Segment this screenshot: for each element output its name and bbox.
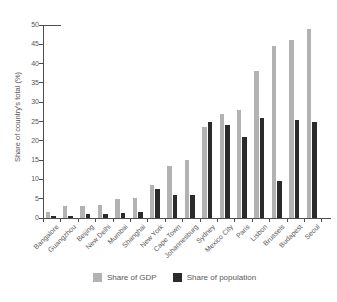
x-tick-mark (217, 219, 218, 222)
bar-population (260, 118, 265, 218)
y-tick-mark (39, 160, 43, 161)
x-tick-mark (147, 219, 148, 222)
bar-population (295, 120, 300, 218)
bar-population (103, 214, 108, 218)
y-tick-label: 0 (19, 214, 39, 222)
bar-gdp (272, 46, 277, 218)
y-tick-mark (39, 121, 43, 122)
bar-population (190, 195, 195, 218)
y-tick-label: 15 (19, 156, 39, 164)
x-tick-mark (287, 219, 288, 222)
x-tick-mark (321, 219, 322, 222)
bar-gdp (46, 212, 51, 218)
bar-population (51, 216, 56, 218)
bar-gdp (63, 206, 68, 218)
x-tick-mark (234, 219, 235, 222)
bar-gdp (167, 166, 172, 218)
x-tick-mark (43, 219, 44, 222)
x-tick-mark (95, 219, 96, 222)
gdp-swatch-icon (93, 273, 102, 282)
bar-gdp (307, 29, 312, 218)
y-tick-mark (39, 179, 43, 180)
bar-gdp (185, 160, 190, 218)
x-tick-mark (60, 219, 61, 222)
y-tick-label: 25 (19, 118, 39, 126)
x-tick-mark (130, 219, 131, 222)
x-tick-mark (78, 219, 79, 222)
y-tick-label: 45 (19, 40, 39, 48)
y-tick-label: 40 (19, 60, 39, 68)
x-tick-mark (165, 219, 166, 222)
bar-population (86, 214, 91, 218)
y-tick-label: 20 (19, 137, 39, 145)
x-tick-mark (304, 219, 305, 222)
bar-gdp (237, 110, 242, 218)
x-tick-mark (113, 219, 114, 222)
bar-population (208, 122, 213, 219)
x-tick-mark (269, 219, 270, 222)
bar-gdp (98, 205, 103, 218)
y-tick-label: 30 (19, 98, 39, 106)
bar-gdp (150, 185, 155, 218)
x-tick-label: Seoul (303, 223, 321, 241)
x-tick-mark (200, 219, 201, 222)
bar-gdp (254, 71, 259, 218)
y-tick-mark (39, 63, 43, 64)
legend-label-population: Share of population (187, 273, 256, 282)
bar-gdp (220, 114, 225, 218)
x-tick-mark (182, 219, 183, 222)
population-swatch-icon (173, 273, 182, 282)
y-tick-mark (39, 140, 43, 141)
y-tick-label: 10 (19, 175, 39, 183)
x-tick-mark (252, 219, 253, 222)
y-tick-mark (39, 102, 43, 103)
bar-population (121, 213, 126, 218)
legend: Share of GDP Share of population (0, 273, 337, 282)
bar-population (68, 216, 73, 218)
bar-population (242, 137, 247, 218)
y-tick-mark (39, 25, 43, 26)
bar-gdp (202, 127, 207, 218)
y-tick-mark (39, 198, 43, 199)
bar-population (173, 195, 178, 218)
bar-gdp (115, 199, 120, 218)
bar-gdp (133, 198, 138, 218)
y-tick-label: 35 (19, 79, 39, 87)
legend-item-population: Share of population (173, 273, 256, 282)
legend-label-gdp: Share of GDP (107, 273, 157, 282)
y-tick-label: 5 (19, 195, 39, 203)
y-tick-mark (39, 44, 43, 45)
bar-population (312, 122, 317, 219)
bar-population (225, 125, 230, 218)
bar-chart-figure: Share of country's total (%) 05101520253… (0, 0, 337, 302)
bar-population (155, 189, 160, 218)
legend-item-gdp: Share of GDP (93, 273, 157, 282)
y-tick-mark (39, 82, 43, 83)
plot-area: 05101520253035404550BangaloreGuangzhouBe… (43, 25, 331, 219)
y-tick-label: 50 (19, 21, 39, 29)
bar-population (138, 212, 143, 218)
bar-population (277, 181, 282, 218)
bar-gdp (289, 40, 294, 218)
bar-gdp (80, 206, 85, 218)
